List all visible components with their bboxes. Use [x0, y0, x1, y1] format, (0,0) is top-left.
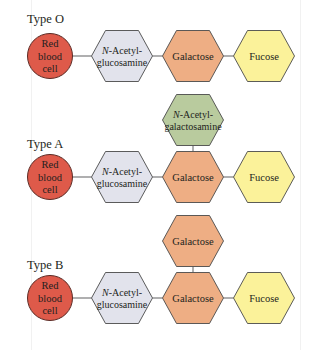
label-text: glucosamine [97, 57, 148, 68]
type-label: Type O [27, 12, 64, 26]
blood-type-type-o: Type ORedbloodcellN-Acetyl-glucosamineGa… [27, 12, 295, 82]
cell-label-line: cell [42, 184, 57, 195]
red-blood-cell: Redbloodcell [28, 34, 73, 79]
antigen-structure-svg: Type ORedbloodcellN-Acetyl-glucosamineGa… [0, 0, 315, 350]
node-label-line: Galactose [172, 172, 214, 183]
cell-label-line: cell [42, 63, 57, 74]
branch-sugar-galactose: Galactose [163, 216, 224, 267]
sugar-galactose: Galactose [163, 152, 224, 203]
label-text: -Acetyl- [109, 45, 142, 56]
label-text: glucosamine [97, 178, 148, 189]
label-text: -Acetyl- [109, 166, 142, 177]
blood-type-type-b: Type BRedbloodcellN-Acetyl-glucosamineGa… [27, 216, 295, 324]
cell-label-line: blood [38, 293, 63, 304]
sugar-fucose: Fucose [234, 31, 295, 82]
node-label-line: Fucose [249, 172, 279, 183]
label-text: -Acetyl- [109, 287, 142, 298]
label-text: Galactose [172, 293, 214, 304]
sugar-n-acetylglucosamine: N-Acetyl-glucosamine [92, 31, 153, 82]
label-text: Fucose [249, 172, 279, 183]
label-text: -Acetyl- [180, 109, 213, 120]
cell-label-line: cell [42, 305, 57, 316]
label-text: Fucose [249, 293, 279, 304]
node-label-line: glucosamine [97, 299, 148, 310]
node-label-line: Galactose [172, 293, 214, 304]
sugar-fucose: Fucose [234, 152, 295, 203]
type-label: Type B [27, 258, 63, 272]
node-label-line: Fucose [249, 293, 279, 304]
node-label-line: N-Acetyl- [101, 166, 142, 177]
branch-sugar-n-acetylgalactosamine: N-Acetyl-galactosamine [163, 95, 224, 146]
label-text: Galactose [172, 172, 214, 183]
cell-label-line: Red [42, 38, 60, 49]
blood-type-antigen-diagram: Type ORedbloodcellN-Acetyl-glucosamineGa… [0, 0, 315, 350]
red-blood-cell: Redbloodcell [28, 155, 73, 200]
node-label-line: N-Acetyl- [101, 45, 142, 56]
red-blood-cell: Redbloodcell [28, 276, 73, 321]
cell-label-line: Red [42, 159, 60, 170]
type-label: Type A [27, 137, 63, 151]
cell-label-line: Red [42, 280, 60, 291]
cell-label-line: blood [38, 172, 63, 183]
node-label-line: galactosamine [164, 121, 222, 132]
label-text: glucosamine [97, 299, 148, 310]
label-text: Galactose [172, 236, 214, 247]
sugar-galactose: Galactose [163, 273, 224, 324]
node-label-line: N-Acetyl- [172, 109, 213, 120]
node-label-line: Galactose [172, 51, 214, 62]
sugar-galactose: Galactose [163, 31, 224, 82]
node-label-line: glucosamine [97, 57, 148, 68]
cell-label-line: blood [38, 51, 63, 62]
label-text: galactosamine [164, 121, 222, 132]
label-text: Galactose [172, 51, 214, 62]
sugar-fucose: Fucose [234, 273, 295, 324]
node-label-line: Galactose [172, 236, 214, 247]
node-label-line: Fucose [249, 51, 279, 62]
sugar-n-acetylglucosamine: N-Acetyl-glucosamine [92, 152, 153, 203]
label-text: Fucose [249, 51, 279, 62]
sugar-n-acetylglucosamine: N-Acetyl-glucosamine [92, 273, 153, 324]
blood-type-type-a: Type ARedbloodcellN-Acetyl-glucosamineGa… [27, 95, 295, 203]
node-label-line: glucosamine [97, 178, 148, 189]
node-label-line: N-Acetyl- [101, 287, 142, 298]
